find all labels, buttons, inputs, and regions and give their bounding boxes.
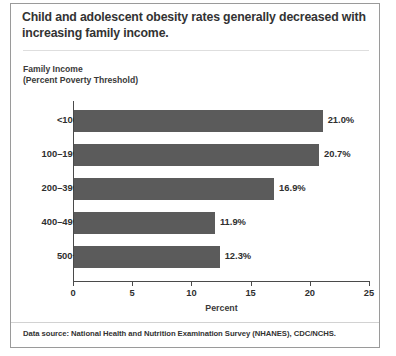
bar: [74, 178, 274, 200]
footer-divider: [11, 322, 379, 323]
bar-category-label: 200–399: [42, 182, 79, 193]
x-axis-tick-label: 0: [70, 288, 75, 298]
data-source-label: Data source:: [23, 329, 69, 338]
x-axis-tick-label: 10: [186, 288, 196, 298]
bar: [74, 110, 323, 132]
bar-category-label: 400–499: [42, 216, 79, 227]
x-axis-tick-label: 25: [364, 288, 374, 298]
bar-value-label: 20.7%: [324, 148, 351, 159]
x-axis-tick: [310, 282, 311, 286]
bar-row: 200–39916.9%: [11, 178, 381, 200]
bar-row: 100–19920.7%: [11, 144, 381, 166]
bar-value-label: 21.0%: [328, 114, 355, 125]
x-axis-title: Percent: [73, 303, 370, 313]
x-axis-line: [73, 281, 370, 282]
bar-category-label: 100–199: [42, 148, 79, 159]
bar-value-label: 12.3%: [225, 250, 252, 261]
x-axis-tick: [132, 282, 133, 286]
x-axis-tick: [73, 282, 74, 286]
bar-row: <10021.0%: [11, 110, 381, 132]
chart-figure: Child and adolescent obesity rates gener…: [10, 3, 380, 348]
plot-area: <10021.0%100–19920.7%200–39916.9%400–499…: [11, 4, 381, 349]
bar: [74, 246, 220, 268]
x-axis-tick: [191, 282, 192, 286]
bar-value-label: 16.9%: [279, 182, 306, 193]
x-axis-tick-label: 15: [245, 288, 255, 298]
bar-row: 500+12.3%: [11, 246, 381, 268]
bar-value-label: 11.9%: [220, 216, 246, 227]
bar-row: 400–49911.9%: [11, 212, 381, 234]
x-axis-tick: [251, 282, 252, 286]
x-axis-tick: [369, 282, 370, 286]
data-source-text: National Health and Nutrition Examinatio…: [69, 329, 336, 338]
data-source-note: Data source: National Health and Nutriti…: [23, 329, 336, 338]
x-axis-tick-label: 5: [130, 288, 135, 298]
bar: [74, 144, 319, 166]
bar: [74, 212, 215, 234]
x-axis-tick-label: 20: [305, 288, 315, 298]
